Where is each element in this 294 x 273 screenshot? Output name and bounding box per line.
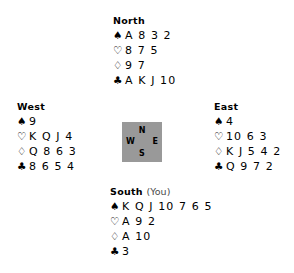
hand-north-label: North (113, 14, 176, 27)
hand-south-spades-ranks: K Q J 10 7 6 5 (122, 199, 213, 214)
spade-icon: ♠ (17, 114, 29, 129)
hand-west: West ♠ 9 ♡ K Q J 4 ♢ Q 8 6 3 ♣ 8 6 5 4 (17, 100, 77, 174)
compass-north-label: N (122, 126, 162, 135)
hand-west-suit-spades: ♠ 9 (17, 114, 77, 129)
diamond-icon: ♢ (110, 229, 122, 244)
club-icon: ♣ (214, 159, 226, 174)
compass-east-label: E (153, 137, 158, 146)
hand-west-suit-hearts: ♡ K Q J 4 (17, 129, 77, 144)
hand-south-clubs-ranks: 3 (122, 244, 130, 259)
heart-icon: ♡ (214, 129, 226, 144)
hand-west-hearts-ranks: K Q J 4 (29, 129, 73, 144)
hand-west-label-text: West (17, 101, 45, 112)
heart-icon: ♡ (17, 129, 29, 144)
hand-south-diamonds-ranks: A 10 (122, 229, 151, 244)
hand-west-label: West (17, 100, 77, 113)
hand-north: North ♠ A 8 3 2 ♡ 8 7 5 ♢ 9 7 ♣ A K J 10 (113, 14, 176, 88)
spade-icon: ♠ (113, 28, 125, 43)
compass-west-label: W (126, 137, 135, 146)
club-icon: ♣ (110, 244, 122, 259)
hand-south: South (You) ♠ K Q J 10 7 6 5 ♡ A 9 2 ♢ A… (110, 185, 213, 259)
hand-north-spades-ranks: A 8 3 2 (125, 28, 172, 43)
hand-west-suit-clubs: ♣ 8 6 5 4 (17, 159, 77, 174)
heart-icon: ♡ (113, 43, 125, 58)
club-icon: ♣ (113, 73, 125, 88)
hand-north-clubs-ranks: A K J 10 (125, 73, 176, 88)
hand-south-suit-spades: ♠ K Q J 10 7 6 5 (110, 199, 213, 214)
diamond-icon: ♢ (17, 144, 29, 159)
hand-east-spades-ranks: 4 (226, 114, 234, 129)
hand-north-suit-hearts: ♡ 8 7 5 (113, 43, 176, 58)
hand-south-label-text: South (110, 186, 143, 197)
hand-south-suit-hearts: ♡ A 9 2 (110, 214, 213, 229)
hand-north-hearts-ranks: 8 7 5 (125, 43, 159, 58)
hand-north-diamonds-ranks: 9 7 (125, 58, 146, 73)
hand-north-suit-diamonds: ♢ 9 7 (113, 58, 176, 73)
club-icon: ♣ (17, 159, 29, 174)
heart-icon: ♡ (110, 214, 122, 229)
hand-south-suit-diamonds: ♢ A 10 (110, 229, 213, 244)
compass-south-label: S (122, 149, 162, 158)
diamond-icon: ♢ (214, 144, 226, 159)
hand-east-label: East (214, 100, 281, 113)
hand-north-label-text: North (113, 15, 145, 26)
hand-west-diamonds-ranks: Q 8 6 3 (29, 144, 77, 159)
hand-east-clubs-ranks: Q 9 7 2 (226, 159, 274, 174)
hand-west-clubs-ranks: 8 6 5 4 (29, 159, 75, 174)
hand-south-label: South (You) (110, 185, 213, 198)
hand-east-label-text: East (214, 101, 238, 112)
hand-east-diamonds-ranks: K J 5 4 2 (226, 144, 281, 159)
hand-west-suit-diamonds: ♢ Q 8 6 3 (17, 144, 77, 159)
hand-east-suit-hearts: ♡ 10 6 3 (214, 129, 281, 144)
hand-north-suit-spades: ♠ A 8 3 2 (113, 28, 176, 43)
hand-east-suit-diamonds: ♢ K J 5 4 2 (214, 144, 281, 159)
hand-east-suit-spades: ♠ 4 (214, 114, 281, 129)
spade-icon: ♠ (214, 114, 226, 129)
hand-east-hearts-ranks: 10 6 3 (226, 129, 268, 144)
compass-box: N W E S (122, 122, 162, 162)
hand-south-you-annotation: (You) (147, 186, 171, 197)
hand-east: East ♠ 4 ♡ 10 6 3 ♢ K J 5 4 2 ♣ Q 9 7 2 (214, 100, 281, 174)
diamond-icon: ♢ (113, 58, 125, 73)
hand-south-hearts-ranks: A 9 2 (122, 214, 156, 229)
hand-north-suit-clubs: ♣ A K J 10 (113, 73, 176, 88)
hand-east-suit-clubs: ♣ Q 9 7 2 (214, 159, 281, 174)
hand-west-spades-ranks: 9 (29, 114, 37, 129)
hand-south-suit-clubs: ♣ 3 (110, 244, 213, 259)
spade-icon: ♠ (110, 199, 122, 214)
